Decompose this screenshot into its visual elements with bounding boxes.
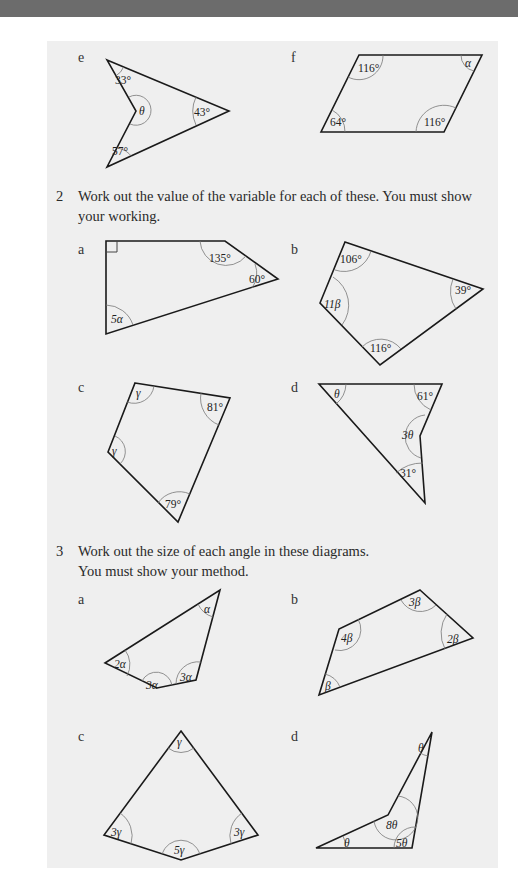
- q2d-concave-quadrilateral-diagram: θ 61° 3θ 31°: [319, 384, 442, 503]
- angle-label: 5θ: [396, 837, 408, 849]
- q1f-parallelogram-diagram: 116° α 64° 116°: [321, 55, 482, 132]
- angle-label: 64°: [330, 116, 347, 128]
- angle-label: 3θ: [401, 429, 414, 441]
- angle-label: 57°: [112, 145, 129, 157]
- q3d-concave-quadrilateral-diagram: θ 8θ θ 5θ: [316, 732, 432, 849]
- angle-label: 3α: [179, 671, 193, 683]
- angle-label: 60°: [249, 273, 266, 285]
- angle-label: 116°: [370, 342, 392, 354]
- q3b-quadrilateral-diagram: 3β 4β 2β β: [319, 590, 473, 695]
- angle-label: 135°: [209, 252, 231, 264]
- angle-label: 5α: [111, 313, 124, 325]
- figures-layer: 33° θ 43° 57° 116° α 64° 116° 135° 60° 5…: [0, 0, 518, 888]
- q3c-kite-diagram: γ 3γ 3γ 5γ: [104, 731, 258, 860]
- q2c-quadrilateral-diagram: γ 81° γ 79°: [108, 383, 230, 522]
- angle-label: θ: [344, 837, 350, 849]
- angle-label: 31°: [400, 467, 417, 479]
- angle-label: θ: [418, 742, 424, 754]
- angle-label: 116°: [358, 62, 380, 74]
- q2a-quadrilateral-diagram: 135° 60° 5α: [106, 241, 278, 334]
- angle-label: α: [204, 603, 211, 615]
- angle-label: 2α: [114, 658, 127, 670]
- angle-label: 3γ: [110, 826, 122, 839]
- angle-label: α: [465, 57, 472, 69]
- angle-label: 2β: [447, 633, 459, 646]
- angle-label: 79°: [165, 498, 182, 510]
- angle-label: 39°: [455, 284, 472, 296]
- angle-label: γ: [136, 387, 141, 400]
- angle-label: 3β: [408, 596, 421, 609]
- angle-label: 11β: [324, 298, 341, 311]
- angle-label: γ: [112, 445, 117, 458]
- angle-label: 106°: [340, 253, 362, 265]
- angle-label: 3γ: [233, 826, 245, 839]
- angle-label: 81°: [207, 401, 224, 413]
- angle-label: β: [324, 680, 331, 693]
- angle-label: θ: [139, 105, 145, 117]
- q1e-dart-diagram: 33° θ 43° 57°: [107, 60, 229, 167]
- angle-label: θ: [334, 388, 340, 400]
- angle-label: γ: [177, 736, 182, 749]
- q3a-quadrilateral-diagram: α 2α 3α 3α: [105, 590, 220, 691]
- angle-label: 8θ: [386, 819, 398, 831]
- angle-label: 116°: [424, 116, 446, 128]
- q2b-quadrilateral-diagram: 106° 39° 11β 116°: [320, 242, 483, 365]
- angle-label: 4β: [341, 632, 353, 645]
- angle-label: 33°: [115, 74, 132, 86]
- angle-label: 5γ: [174, 844, 185, 857]
- angle-label: 43°: [194, 106, 211, 118]
- angle-label: 3α: [145, 679, 159, 691]
- angle-label: 61°: [417, 390, 434, 402]
